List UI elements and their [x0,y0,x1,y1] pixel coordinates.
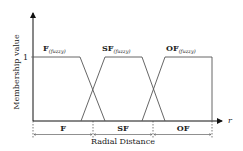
series-f-fuzzy-line [33,57,105,121]
x-axis-label: Radial Distance [91,137,155,146]
region-label-sf: SF [117,123,129,133]
region-label-f: F [60,123,66,133]
fuzzy-membership-chart: 1 Membership value r F(fuzzy) SF(fuzzy) … [0,0,243,151]
series-label-sf: SF(fuzzy) [102,43,131,55]
series-of-fuzzy-line [142,57,212,121]
y-axis-label: Membership value [12,34,21,110]
series-label-f: F(fuzzy) [43,43,66,55]
series-sf-fuzzy-line [81,57,165,121]
y-tick-label: 1 [23,53,28,62]
x-axis-symbol: r [228,116,233,125]
series-label-of: OF(fuzzy) [166,43,196,55]
region-label-of: OF [177,123,190,133]
